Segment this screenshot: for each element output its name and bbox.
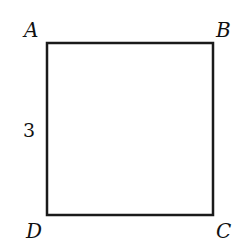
vertex-label-b: B <box>215 18 231 42</box>
square-abcd <box>47 43 213 215</box>
square-diagram: A B C D 3 <box>0 0 243 251</box>
vertex-label-d: D <box>25 219 42 243</box>
vertex-label-c: C <box>216 219 231 243</box>
side-length-label: 3 <box>23 119 35 141</box>
vertex-label-a: A <box>22 18 38 42</box>
